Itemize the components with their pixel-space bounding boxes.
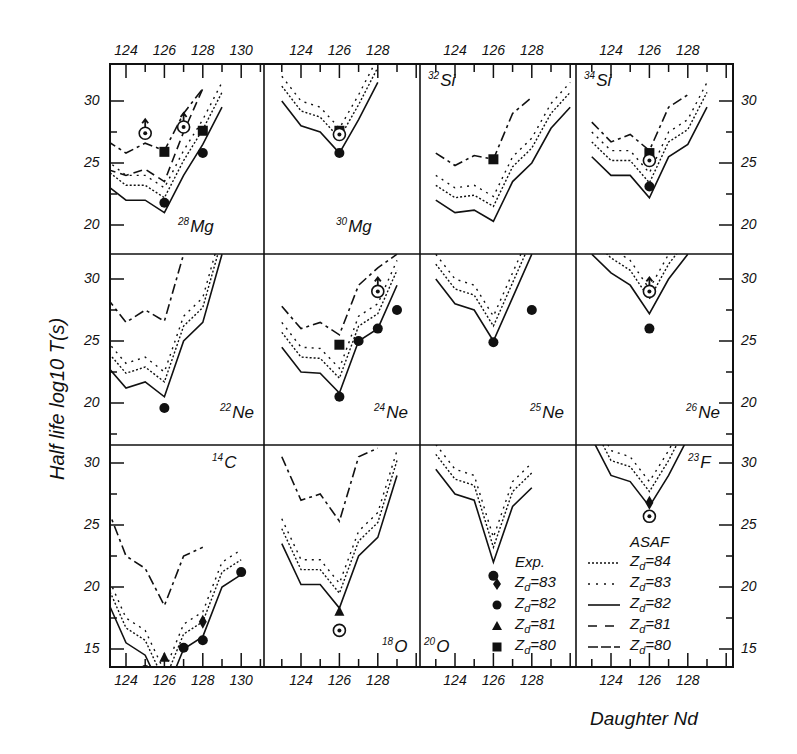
x-tick-label: 128: [366, 42, 389, 58]
x-tick-label: 126: [482, 42, 505, 58]
exp-marker-circle: [644, 182, 654, 192]
legend-asaf-entry: Zd=80: [630, 636, 671, 656]
exp-marker-circle-open: [333, 624, 345, 636]
exp-marker-circle: [198, 148, 208, 158]
exp-marker-circle: [334, 148, 344, 158]
exp-marker-square: [334, 340, 344, 350]
exp-marker-circle: [198, 635, 208, 645]
exp-marker-triangle: [334, 606, 344, 616]
exp-marker-circle: [334, 392, 344, 402]
exp-marker-diamond: [199, 615, 207, 629]
y-tick-label: 30: [741, 92, 757, 108]
exp-marker-square: [159, 147, 169, 157]
y-tick-label: 20: [741, 394, 757, 410]
nucleus-label-34Si: 34Si: [584, 70, 611, 91]
nucleus-label-18O: 18O: [382, 636, 407, 657]
x-tick-label: 124: [599, 672, 622, 688]
exp-marker-square: [488, 154, 498, 164]
exp-marker-circle: [179, 643, 189, 653]
panel-26Ne: [592, 229, 688, 333]
x-tick-label: 130: [230, 672, 253, 688]
x-tick-label: 126: [328, 672, 351, 688]
x-tick-label: 124: [599, 42, 622, 58]
x-tick-label: 124: [289, 42, 312, 58]
y-tick-label: 30: [84, 454, 100, 470]
panel-23F: [592, 413, 688, 522]
legend-exp-title: Exp.: [515, 553, 545, 570]
exp-marker-circle-open-lowerlimit: [139, 119, 151, 139]
exp-marker-circle-open: [333, 128, 345, 140]
exp-marker-circle: [527, 305, 537, 315]
y-axis-label-text: Half life log10 T(s): [46, 318, 68, 480]
x-tick-label: 128: [520, 672, 543, 688]
legend-exp-entry: Zd=81: [515, 615, 556, 635]
panel-32Si: [436, 82, 570, 221]
exp-marker-circle: [236, 567, 246, 577]
nucleus-label-26Ne: 26Ne: [686, 402, 720, 423]
exp-marker-triangle: [159, 652, 169, 662]
y-tick-label: 30: [84, 92, 100, 108]
legend-marker-circle: [493, 601, 502, 610]
exp-marker-circle: [392, 305, 402, 315]
y-tick-label: 20: [84, 578, 100, 594]
x-tick-label: 124: [289, 672, 312, 688]
y-axis-label: Half life log10 T(s): [46, 180, 76, 480]
x-tick-label: 130: [230, 42, 253, 58]
panel-18O: [282, 448, 397, 636]
nucleus-label-22Ne: 22Ne: [220, 402, 254, 423]
x-tick-label: 124: [114, 42, 137, 58]
legend-asaf-title: ASAF: [630, 533, 669, 550]
x-tick-label: 124: [443, 672, 466, 688]
y-tick-label: 20: [84, 216, 100, 232]
nucleus-label-14C: 14C: [212, 452, 236, 473]
x-tick-label: 126: [482, 672, 505, 688]
exp-marker-circle: [354, 336, 364, 346]
legend-asaf-entry: Zd=82: [630, 594, 671, 614]
x-tick-label: 126: [328, 42, 351, 58]
x-tick-label: 126: [153, 672, 176, 688]
exp-marker-circle-open: [643, 155, 655, 167]
legend-exp-entry: Zd=80: [515, 636, 556, 656]
nucleus-label-30Mg: 30Mg: [336, 216, 372, 237]
nucleus-label-20O: 20O: [424, 636, 449, 657]
y-tick-label: 25: [741, 332, 757, 348]
exp-marker-circle: [159, 198, 169, 208]
nucleus-label-28Mg: 28Mg: [178, 216, 214, 237]
exp-marker-square: [198, 126, 208, 136]
exp-marker-diamond: [645, 496, 653, 510]
x-tick-label: 124: [443, 42, 466, 58]
y-tick-label: 20: [741, 216, 757, 232]
y-tick-label: 20: [741, 578, 757, 594]
panel-34Si: [592, 82, 707, 197]
exp-marker-circle: [140, 665, 150, 675]
y-tick-label: 30: [741, 270, 757, 286]
nucleus-label-25Ne: 25Ne: [530, 402, 564, 423]
y-tick-label: 25: [741, 516, 757, 532]
y-tick-label: 15: [84, 640, 100, 656]
panel-30Mg: [282, 58, 378, 158]
y-tick-label: 25: [84, 516, 100, 532]
y-tick-label: 15: [741, 640, 757, 656]
nucleus-label-23F: 23F: [688, 452, 711, 473]
legend-exp-entry: Zd=83: [515, 573, 556, 593]
x-tick-label: 128: [366, 672, 389, 688]
x-axis-label: Daughter Nd: [590, 708, 698, 730]
legend-marker-triangle: [492, 621, 502, 630]
legend-asaf-entry: Zd=83: [630, 573, 671, 593]
nucleus-label-32Si: 32Si: [428, 70, 455, 91]
x-tick-label: 128: [191, 672, 214, 688]
exp-marker-circle-open-lowerlimit: [643, 277, 655, 297]
exp-marker-circle-open: [643, 510, 655, 522]
exp-marker-circle: [373, 324, 383, 334]
panel-22Ne: [107, 229, 222, 413]
x-tick-label: 128: [676, 42, 699, 58]
exp-marker-circle: [644, 324, 654, 334]
x-axis-label-text: Daughter Nd: [590, 708, 698, 729]
x-tick-label: 126: [638, 672, 661, 688]
y-tick-label: 30: [741, 454, 757, 470]
x-tick-label: 126: [638, 42, 661, 58]
legend-asaf-entry: Zd=84: [630, 552, 671, 572]
exp-marker-circle-open-lowerlimit: [372, 277, 384, 297]
exp-marker-circle: [159, 694, 169, 704]
legend-marker-square: [493, 643, 502, 652]
